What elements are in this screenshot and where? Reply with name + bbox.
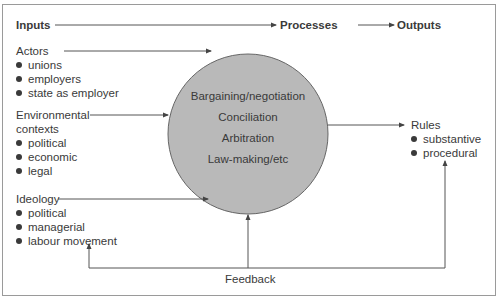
ideology-item: labour movement [16,234,117,248]
actors-label: Actors [16,44,49,58]
rules-item: substantive [411,132,481,146]
process-item: Conciliation [168,110,328,124]
actors-item: state as employer [16,86,119,100]
environmental-item: political [16,136,66,150]
environmental-label-line2: contexts [16,122,59,136]
process-item: Law-making/etc [168,152,328,166]
environmental-item: legal [16,164,52,178]
processes-header: Processes [280,18,338,32]
process-item: Bargaining/negotiation [168,89,328,103]
ideology-item: managerial [16,220,85,234]
inputs-header: Inputs [16,18,51,32]
rules-label: Rules [411,118,440,132]
ideology-label: Ideology [16,192,59,206]
actors-item: unions [16,58,62,72]
environmental-item: economic [16,150,77,164]
outputs-header: Outputs [397,18,441,32]
process-item: Arbitration [168,131,328,145]
feedback-label: Feedback [225,272,276,286]
actors-item: employers [16,72,81,86]
rules-item: procedural [411,146,477,160]
environmental-label: Environmental [16,108,90,122]
ideology-item: political [16,206,66,220]
